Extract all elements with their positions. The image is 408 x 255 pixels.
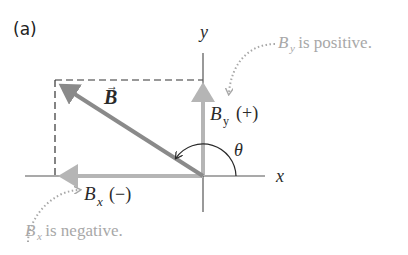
- by-annotation-pointer: [229, 44, 275, 92]
- svg-text:y: y: [223, 114, 229, 128]
- svg-text:x: x: [96, 194, 103, 209]
- svg-text:(+): (+): [236, 103, 258, 124]
- panel-label: (a): [13, 19, 37, 39]
- vector-diagram: (a) B → y x θ B y (+) B x (−) B y: [0, 0, 408, 255]
- svg-text:→: →: [106, 79, 118, 93]
- svg-text:B: B: [84, 183, 96, 204]
- y-axis-label: y: [198, 22, 208, 42]
- svg-text:is negative.: is negative.: [41, 221, 123, 240]
- x-axis-label: x: [275, 166, 284, 186]
- svg-text:B: B: [25, 221, 36, 240]
- svg-text:(−): (−): [109, 184, 131, 205]
- theta-arc: [176, 144, 236, 176]
- bx-component-label: B x (−): [84, 183, 131, 209]
- svg-text:B: B: [210, 103, 222, 124]
- vector-b-arrow: [62, 86, 203, 176]
- svg-text:is positive.: is positive.: [294, 33, 372, 52]
- by-component-label: B y (+): [210, 103, 258, 128]
- svg-text:B: B: [278, 33, 289, 52]
- by-positive-annotation: B y is positive.: [229, 33, 372, 92]
- theta-label: θ: [234, 140, 243, 160]
- coordinate-axes: [25, 53, 265, 212]
- vector-b-label: B →: [103, 79, 118, 108]
